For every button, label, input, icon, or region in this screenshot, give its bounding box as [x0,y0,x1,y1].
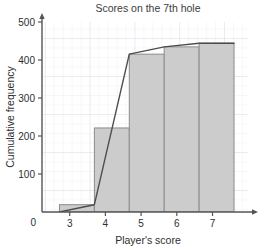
x-tick-label-5: 5 [138,218,144,229]
y-axis-title: Cumulative frequency [4,65,16,167]
bar-1 [94,128,129,212]
bar-2 [129,54,164,212]
y-tick-labels: 500 400 300 200 100 0 [18,17,36,228]
y-tick-label-300: 300 [18,93,35,104]
x-axis-title: Player's score [115,234,181,246]
bar-4 [199,43,234,212]
x-tick-label-4: 4 [103,218,109,229]
cumulative-frequency-chart: Scores on the 7th hole 500 400 300 [0,0,264,250]
x-tick-label-3: 3 [67,218,73,229]
y-tick-label-0: 0 [30,217,36,228]
bar-3 [164,47,199,212]
y-tick-label-500: 500 [18,17,35,28]
chart-svg: Scores on the 7th hole 500 400 300 [0,0,264,250]
y-tick-label-400: 400 [18,55,35,66]
x-tick-label-6: 6 [174,218,180,229]
y-tick-label-100: 100 [18,169,35,180]
x-tick-label-7: 7 [210,218,216,229]
x-tick-labels: 3 4 5 6 7 [67,218,216,229]
y-tick-label-200: 200 [18,131,35,142]
chart-title: Scores on the 7th hole [95,2,200,14]
